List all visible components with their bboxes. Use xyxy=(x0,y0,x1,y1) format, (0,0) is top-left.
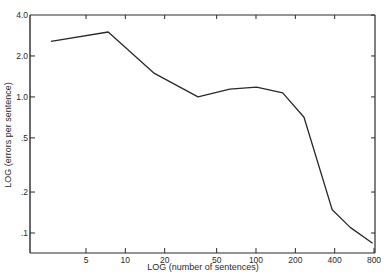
y-tick-label: 4.0 xyxy=(16,10,28,20)
data-series xyxy=(51,32,373,243)
x-tick-label: 200 xyxy=(288,255,302,265)
y-tick-label: .5 xyxy=(21,133,28,143)
line-chart: 4.02.01.0.5.2.1 5102050100200400800 LOG … xyxy=(0,0,384,276)
series-line xyxy=(51,32,373,243)
x-tick-label: 10 xyxy=(121,255,131,265)
y-axis-label: LOG (errors per sentence) xyxy=(3,82,13,188)
y-tick-label: .1 xyxy=(21,228,28,238)
x-tick-label: 800 xyxy=(367,255,381,265)
x-axis-ticks: 5102050100200400800 xyxy=(84,15,382,265)
y-tick-label: 1.0 xyxy=(16,92,28,102)
y-tick-label: 2.0 xyxy=(16,51,28,61)
x-tick-label: 400 xyxy=(328,255,342,265)
y-axis-ticks: 4.02.01.0.5.2.1 xyxy=(16,10,375,238)
x-axis-label: LOG (number of sentences) xyxy=(147,262,259,272)
y-tick-label: .2 xyxy=(21,187,28,197)
x-tick-label: 5 xyxy=(84,255,89,265)
plot-frame xyxy=(30,15,375,253)
